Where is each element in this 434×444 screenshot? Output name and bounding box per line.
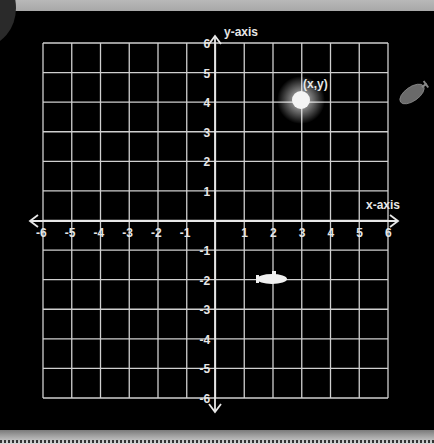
x-tick-labels: -6-5-4-3-2-1123456 [36,226,392,240]
y-tick-label: 6 [204,37,211,51]
submarine-icon [256,271,287,284]
x-tick-label: 2 [270,226,277,240]
y-tick-label: -1 [200,244,211,258]
blimp-icon [397,78,431,108]
x-tick-label: -2 [151,226,162,240]
x-tick-label: -1 [180,226,191,240]
y-tick-label: 5 [204,67,211,81]
x-tick-label: 1 [241,226,248,240]
x-tick-label: -5 [65,226,76,240]
x-tick-label: -6 [36,226,47,240]
axes [30,36,398,412]
y-tick-label: -2 [200,274,211,288]
x-tick-label: 6 [385,226,392,240]
y-axis-label: y-axis [224,25,258,39]
y-tick-label: -4 [200,333,211,347]
y-tick-label: -5 [200,362,211,376]
point-label: (x,y) [303,77,328,91]
x-tick-label: -4 [94,226,105,240]
x-tick-label: 4 [328,226,335,240]
y-tick-label: 3 [204,126,211,140]
y-tick-label: -6 [200,392,211,406]
y-tick-label: 1 [204,185,211,199]
bottom-frame-bar [0,430,434,444]
y-tick-label: -3 [200,303,211,317]
x-tick-label: 3 [299,226,306,240]
y-tick-label: 4 [204,96,211,110]
y-tick-label: 2 [204,155,211,169]
coordinate-plane: y-axis x-axis -6-5-4-3-2-1123456 654321-… [0,0,434,444]
x-tick-label: -3 [122,226,133,240]
x-tick-label: 5 [356,226,363,240]
x-axis-label: x-axis [366,198,400,212]
